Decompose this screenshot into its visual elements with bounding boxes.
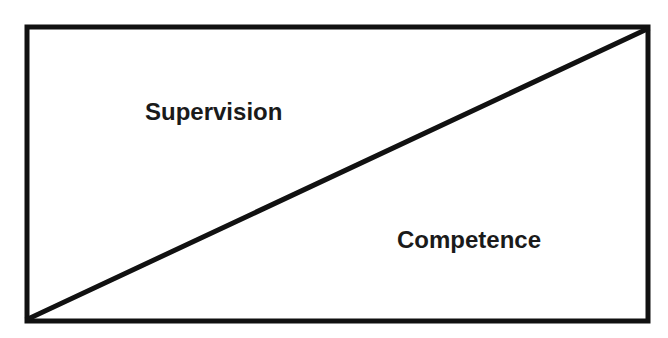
competence-label: Competence [397,228,541,252]
supervision-label: Supervision [145,100,282,124]
diagram-canvas [0,0,668,338]
